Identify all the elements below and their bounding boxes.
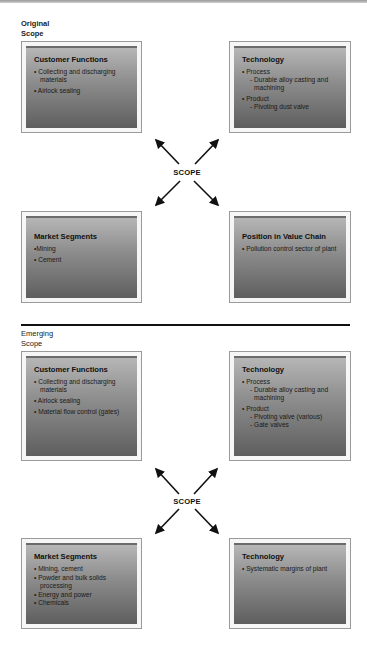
sub-item: - Durable alloy casting and machining: [248, 76, 340, 92]
section-divider: [21, 324, 350, 326]
sub-item: - Gate valves: [248, 421, 340, 429]
sub-item: - Pivoting valve (various): [248, 413, 340, 421]
arrow-up-right-icon: [195, 140, 218, 164]
box-list: • Collecting and discharging materials •…: [34, 378, 131, 416]
box-body: Market Segments • Mining, cement • Powde…: [26, 543, 137, 624]
list-item: • Chemicals: [34, 599, 131, 607]
box-list: •Mining • Cement: [34, 245, 131, 264]
emerging-label-line1: Emerging: [21, 329, 53, 339]
box-body: Technology • Process - Durable alloy cas…: [234, 46, 346, 128]
scope-center-label: SCOPE: [167, 168, 207, 177]
list-item: • Powder and bulk solids processing: [34, 574, 131, 590]
arrow-up-left-icon: [156, 469, 179, 494]
list-item: • Process - Durable alloy casting and ma…: [242, 68, 340, 92]
box-body: Technology • Process - Durable alloy cas…: [234, 356, 346, 456]
scope-center-label: SCOPE: [167, 497, 207, 506]
box-body: Market Segments •Mining • Cement: [26, 216, 137, 298]
box-list: • Collecting and discharging materials •…: [34, 68, 131, 95]
list-item: • Product - Pivoting valve (various) - G…: [242, 405, 340, 429]
list-item: •Mining: [34, 245, 131, 253]
emerging-label-line2: Scope: [21, 339, 53, 349]
box-body: Customer Functions • Collecting and disc…: [26, 356, 137, 456]
list-item: • Product - Pivoting dust valve: [242, 95, 340, 111]
box-list: • Process - Durable alloy casting and ma…: [242, 378, 340, 429]
list-item: • Systematic margins of plant: [242, 565, 340, 573]
emerging-market-segments-box: Market Segments • Mining, cement • Powde…: [21, 538, 142, 629]
original-technology-box: Technology • Process - Durable alloy cas…: [229, 41, 351, 133]
box-title: Technology: [242, 365, 340, 374]
emerging-customer-functions-box: Customer Functions • Collecting and disc…: [21, 351, 142, 461]
arrow-down-right-icon: [195, 509, 218, 533]
box-list: • Mining, cement • Powder and bulk solid…: [34, 565, 131, 607]
list-item: • Pollution control sector of plant: [242, 245, 340, 253]
box-title: Position in Value Chain: [242, 232, 340, 241]
list-item: • Process - Durable alloy casting and ma…: [242, 378, 340, 402]
list-item: • Airlock sealing: [34, 397, 131, 405]
list-item-text: • Product: [242, 405, 269, 412]
original-scope-label: Original Scope: [21, 19, 49, 38]
emerging-technology-box: Technology • Process - Durable alloy cas…: [229, 351, 351, 461]
list-item-text: • Product: [242, 95, 269, 102]
box-title: Customer Functions: [34, 365, 131, 374]
arrow-up-right-icon: [194, 469, 217, 494]
list-item: • Material flow control (gates): [34, 408, 131, 416]
list-item: • Airlock sealing: [34, 87, 131, 95]
box-title: Technology: [242, 55, 340, 64]
arrow-up-left-icon: [156, 140, 179, 164]
original-customer-functions-box: Customer Functions • Collecting and disc…: [21, 41, 142, 133]
emerging-scope-label: Emerging Scope: [21, 329, 53, 348]
list-item: • Energy and power: [34, 591, 131, 599]
list-item: • Mining, cement: [34, 565, 131, 573]
sub-item: - Durable alloy casting and machining: [248, 386, 340, 402]
box-list: • Process - Durable alloy casting and ma…: [242, 68, 340, 111]
original-label-line1: Original: [21, 19, 49, 29]
list-item: • Collecting and discharging materials: [34, 68, 131, 84]
box-list: • Systematic margins of plant: [242, 565, 340, 573]
box-body: Technology • Systematic margins of plant: [234, 543, 346, 624]
original-label-line2: Scope: [21, 29, 49, 39]
list-item-text: • Process: [242, 378, 270, 385]
box-body: Customer Functions • Collecting and disc…: [26, 46, 137, 128]
emerging-technology-2-box: Technology • Systematic margins of plant: [229, 538, 351, 629]
arrow-down-right-icon: [194, 181, 218, 205]
list-item: • Collecting and discharging materials: [34, 378, 131, 394]
box-body: Position in Value Chain • Pollution cont…: [234, 216, 346, 298]
box-title: Technology: [242, 552, 340, 561]
arrow-down-left-icon: [156, 181, 180, 205]
box-title: Market Segments: [34, 232, 131, 241]
top-bar: [0, 0, 367, 3]
list-item-text: • Process: [242, 68, 270, 75]
original-value-chain-box: Position in Value Chain • Pollution cont…: [229, 211, 351, 303]
original-market-segments-box: Market Segments •Mining • Cement: [21, 211, 142, 303]
box-title: Customer Functions: [34, 55, 131, 64]
arrow-down-left-icon: [156, 509, 179, 533]
box-list: • Pollution control sector of plant: [242, 245, 340, 253]
sub-item: - Pivoting dust valve: [248, 103, 340, 111]
list-item: • Cement: [34, 256, 131, 264]
box-title: Market Segments: [34, 552, 131, 561]
